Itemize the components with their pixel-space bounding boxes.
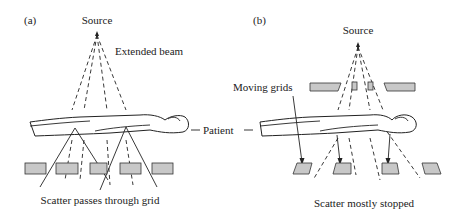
patient-a: [30, 115, 189, 136]
beam-lines: [65, 35, 133, 185]
moving-grids-label: Moving grids: [233, 81, 293, 93]
panel-b-label: (b): [253, 14, 266, 27]
bottom-grids-b: [293, 163, 441, 174]
panel-a-caption: Scatter passes through grid: [41, 194, 160, 206]
beam-lines-b: [313, 47, 420, 180]
scatter-lines-a: [40, 127, 157, 190]
panel-a-label: (a): [24, 14, 37, 27]
grids-a: [25, 163, 173, 174]
panel-a: (a) Source Extended beam: [24, 14, 189, 206]
patient-b: [260, 115, 416, 136]
scatter-grid-diagram: (a) Source Extended beam: [0, 0, 462, 221]
source-point-icon: [356, 42, 360, 47]
patient-label-group: Patient: [191, 124, 253, 136]
top-grids-b: [310, 82, 415, 91]
extended-beam-label: Extended beam: [115, 45, 184, 57]
panel-b-caption: Scatter mostly stopped: [314, 197, 415, 209]
patient-label: Patient: [203, 124, 234, 136]
panel-b-source-label: Source: [343, 24, 374, 36]
panel-b: (b) Source Moving grids: [233, 14, 441, 209]
panel-a-source-label: Source: [82, 14, 113, 26]
